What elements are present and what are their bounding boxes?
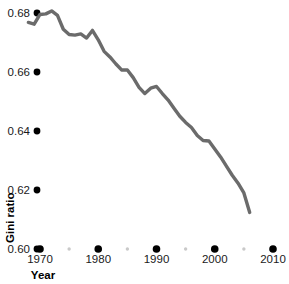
x-axis-tick-label: 1980 (85, 253, 111, 265)
x-axis-tick-label: 2010 (260, 253, 286, 265)
x-axis-minor-tick-dot (242, 247, 245, 250)
x-axis-tick-label: 1990 (144, 253, 170, 265)
y-axis-tick-dot (34, 69, 41, 76)
data-series-group (28, 11, 249, 212)
x-axis-tick-dot (269, 245, 277, 253)
y-axis-tick-label: 0.68 (8, 7, 30, 19)
data-series-line (28, 11, 249, 212)
gini-ratio-chart: 0.600.620.640.660.68 1970198019902000201… (0, 0, 289, 284)
y-axis-tick-label: 0.66 (8, 66, 30, 78)
x-axis-tick-label: 1970 (27, 253, 53, 265)
chart-canvas: 0.600.620.640.660.68 1970198019902000201… (0, 0, 289, 284)
x-axis-tick-dot (211, 245, 219, 253)
x-axis-tick-dot (36, 245, 44, 253)
y-axis-title: Gini ratio (4, 193, 16, 243)
y-axis-tick-dot (34, 187, 41, 194)
x-axis-minor-tick-dot (184, 247, 187, 250)
y-axis-tick-label: 0.64 (8, 125, 31, 137)
y-axis-tick-group (34, 10, 41, 253)
x-axis-tick-dot (153, 245, 161, 253)
x-axis-minor-tick-dot (126, 247, 129, 250)
x-axis-minor-tick-dot (67, 247, 70, 250)
x-axis-title: Year (31, 269, 56, 281)
x-axis-tick-label: 2000 (202, 253, 228, 265)
x-axis-label-group: 19701980199020002010 (27, 253, 286, 265)
y-axis-tick-dot (34, 128, 41, 135)
x-axis-major-tick-group (36, 245, 277, 253)
x-axis-tick-dot (94, 245, 102, 253)
